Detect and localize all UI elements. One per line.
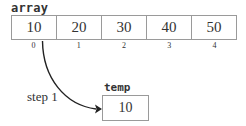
temp-label: temp — [104, 81, 131, 94]
temp-box: 10 — [102, 95, 149, 121]
step-label: step 1 — [27, 89, 58, 105]
arrowhead-icon — [95, 105, 102, 114]
